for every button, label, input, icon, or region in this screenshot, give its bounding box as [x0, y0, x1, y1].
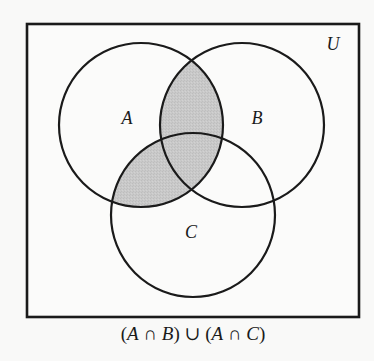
caption-union-symbol: ∪	[180, 323, 205, 344]
caption-intersect-symbol: ∩	[139, 323, 162, 344]
caption-set-a: A	[125, 323, 139, 344]
set-label-b: B	[252, 108, 263, 128]
caption-paren: )	[259, 323, 265, 345]
caption-set-b: B	[162, 323, 174, 344]
caption-intersect-symbol: ∩	[223, 323, 246, 344]
caption-set-a: A	[210, 323, 224, 344]
set-label-a: A	[121, 108, 134, 128]
venn-diagram: U A B C (A ∩ B) ∪ (A ∩ C)	[0, 0, 374, 361]
caption-expression: (A ∩ B) ∪ (A ∩ C)	[121, 323, 266, 345]
caption-set-c: C	[246, 323, 259, 344]
universe-label: U	[327, 34, 341, 54]
set-label-c: C	[185, 222, 198, 242]
